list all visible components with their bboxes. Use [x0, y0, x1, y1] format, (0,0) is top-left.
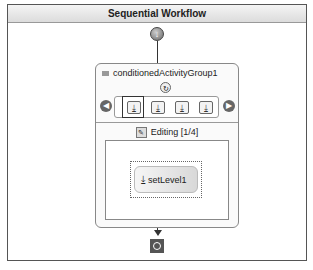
- workflow-designer: Sequential Workflow ↓ conditionedActivit…: [7, 4, 307, 261]
- editing-indicator: ✎Editing [1/4]: [96, 127, 238, 138]
- activity-3-icon[interactable]: ⤓: [175, 101, 189, 114]
- arrow-icon: [154, 230, 162, 236]
- condition-icon[interactable]: ↻: [160, 82, 171, 93]
- activity-setlevel1[interactable]: ⤓setLevel1: [134, 166, 198, 193]
- selection-box: [122, 96, 144, 118]
- next-button[interactable]: ▶: [223, 100, 235, 112]
- end-icon[interactable]: [150, 239, 164, 253]
- prev-button[interactable]: ◀: [100, 100, 112, 112]
- activity-icon: ⤓: [141, 174, 145, 185]
- editing-label: Editing [1/4]: [151, 127, 199, 137]
- group-title: conditionedActivityGroup1: [102, 68, 218, 78]
- edit-icon: ✎: [136, 127, 147, 138]
- workflow-title: Sequential Workflow: [8, 5, 306, 23]
- group-title-label: conditionedActivityGroup1: [113, 68, 218, 78]
- conditioned-activity-group[interactable]: conditionedActivityGroup1 ↻ ◀ ⤓ ⤓ ⤓ ⤓ ▶ …: [95, 63, 239, 228]
- activity-2-icon[interactable]: ⤓: [151, 101, 165, 114]
- connector-line: [157, 41, 158, 63]
- activity-label: setLevel1: [148, 175, 187, 185]
- editing-area: ⤓setLevel1: [105, 140, 229, 220]
- activity-strip: ⤓ ⤓ ⤓ ⤓: [114, 96, 219, 118]
- divider: [96, 122, 238, 123]
- activity-4-icon[interactable]: ⤓: [199, 101, 213, 114]
- collapse-icon[interactable]: [102, 71, 109, 76]
- start-icon[interactable]: ↓: [150, 27, 164, 41]
